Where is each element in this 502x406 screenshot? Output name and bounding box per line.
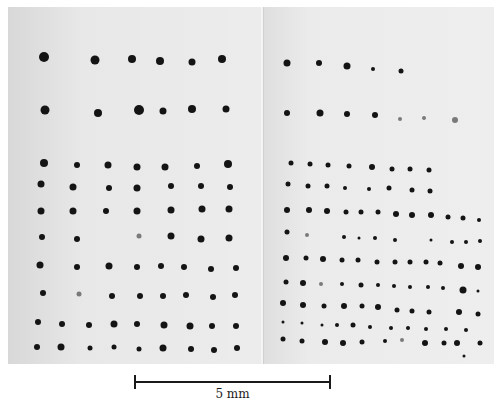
dot-right: [283, 255, 289, 261]
dot-left: [74, 236, 80, 242]
dot-left: [198, 236, 205, 243]
dot-right: [463, 355, 466, 358]
dot-right: [316, 60, 322, 66]
dot-left: [198, 183, 204, 189]
dot-right: [376, 210, 381, 215]
dot-right: [406, 326, 410, 330]
dot-left: [37, 262, 44, 269]
dot-right: [424, 327, 428, 331]
dot-right: [284, 280, 289, 285]
dot-left: [137, 234, 142, 239]
dot-left: [41, 106, 50, 115]
dot-right: [359, 210, 364, 215]
dot-left: [134, 164, 141, 171]
dot-right: [359, 283, 364, 288]
dot-left: [232, 292, 238, 298]
dot-right: [376, 283, 380, 287]
dot-right: [372, 112, 378, 118]
dot-left: [70, 208, 77, 215]
dot-left: [188, 105, 196, 113]
dot-left: [187, 323, 194, 330]
dot-right: [367, 187, 371, 191]
dot-right: [342, 235, 346, 239]
dot-right: [430, 239, 433, 242]
dot-left: [134, 264, 140, 270]
dot-left: [156, 57, 164, 65]
dot-right: [408, 285, 412, 289]
dot-right: [409, 212, 415, 218]
dot-right: [393, 211, 399, 217]
dot-right: [340, 258, 345, 263]
dot-right: [427, 168, 432, 173]
dot-left: [77, 292, 82, 297]
dot-right: [477, 290, 480, 293]
dot-right: [344, 63, 351, 70]
dot-right: [408, 167, 413, 172]
dot-right: [289, 161, 294, 166]
dot-right: [305, 233, 309, 237]
dot-array-photograph: [8, 7, 494, 364]
dot-left: [35, 319, 41, 325]
dot-right: [280, 300, 286, 306]
dot-right: [454, 340, 460, 346]
dot-left: [168, 207, 175, 214]
dot-right: [300, 280, 306, 286]
dot-right: [369, 164, 375, 170]
dot-right: [428, 189, 433, 194]
dot-left: [38, 208, 45, 215]
dot-right: [284, 60, 291, 67]
dot-right: [464, 328, 468, 332]
dot-right: [458, 263, 464, 269]
dot-right: [426, 285, 430, 289]
dot-left: [234, 345, 240, 351]
dot-right: [344, 210, 349, 215]
dot-right: [319, 282, 323, 286]
dot-right: [325, 184, 330, 189]
dot-left: [208, 266, 214, 272]
dot-left: [227, 184, 233, 190]
dot-right: [438, 261, 443, 266]
dot-right: [450, 240, 454, 244]
dot-right: [464, 240, 468, 244]
dot-right: [427, 310, 432, 315]
dot-right: [476, 312, 481, 317]
dot-left: [160, 345, 167, 352]
dot-right: [460, 287, 467, 294]
dot-right: [400, 338, 404, 342]
dot-right: [446, 215, 451, 220]
dot-right: [444, 327, 448, 331]
dot-left: [137, 293, 143, 299]
dot-right: [477, 218, 481, 222]
dot-right: [478, 239, 482, 243]
dot-left: [38, 181, 45, 188]
dot-right: [424, 260, 429, 265]
dot-right: [347, 164, 352, 169]
dot-right: [335, 323, 339, 327]
dot-right: [441, 286, 445, 290]
dot-left: [160, 108, 167, 115]
dot-right: [410, 188, 415, 193]
dot-right: [351, 323, 356, 328]
dot-right: [317, 110, 324, 117]
dot-left: [233, 265, 239, 271]
dot-right: [389, 326, 393, 330]
dot-right: [422, 340, 428, 346]
dot-left: [74, 162, 80, 168]
dot-left: [224, 160, 232, 168]
dot-right: [343, 186, 347, 190]
dot-right: [281, 337, 286, 342]
scale-bar-line: [134, 381, 331, 383]
dot-left: [160, 293, 166, 299]
dot-left: [194, 163, 200, 169]
dot-right: [308, 162, 313, 167]
dot-left: [106, 263, 113, 270]
dot-left: [103, 208, 109, 214]
dot-right: [399, 69, 404, 74]
dot-right: [326, 163, 331, 168]
dot-left: [91, 56, 100, 65]
dot-right: [300, 302, 306, 308]
dot-left: [134, 185, 141, 192]
dot-right: [300, 339, 305, 344]
dot-right: [393, 260, 398, 265]
dot-right: [301, 322, 304, 325]
